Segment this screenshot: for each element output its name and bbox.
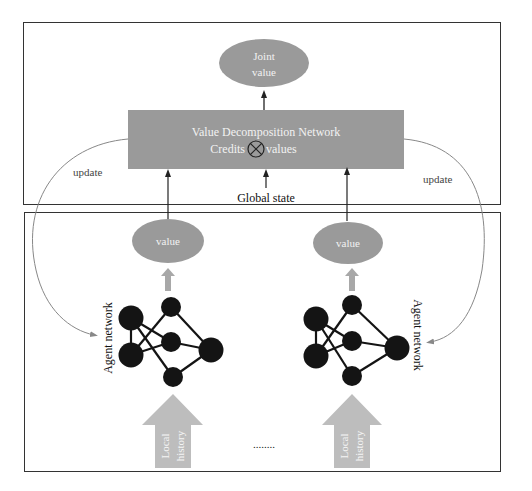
joint-value-label-1: Joint — [253, 50, 274, 62]
update-label-left: update — [73, 166, 102, 178]
agent-2-local-history-arrow: Local history — [322, 394, 382, 468]
agent-1-value-node: value — [132, 219, 204, 263]
joint-value-label-2: value — [252, 66, 276, 78]
agent-1: value Agent network Lo — [101, 219, 224, 468]
agent-2-up-arrow — [345, 268, 359, 291]
agent-2-value-label: value — [336, 237, 360, 249]
agent-1-local-history-arrow: Local history — [142, 394, 203, 468]
agent-2-local-label: Local — [338, 433, 350, 458]
agent-2-value-node: value — [313, 222, 383, 264]
update-label-right: update — [423, 173, 452, 185]
agent-2: value Agent network Lo — [304, 222, 426, 468]
agent-2-history-label: history — [353, 430, 365, 461]
global-state-label: Global state — [237, 191, 295, 205]
credits-label: Credits — [210, 142, 245, 156]
bottom-panel — [25, 213, 501, 472]
vdn-title: Value Decomposition Network — [192, 125, 341, 139]
agent-1-value-label: value — [156, 235, 180, 247]
agent-1-network-icon — [119, 297, 224, 387]
vdn-box: Value Decomposition Network Credits valu… — [128, 110, 404, 169]
agent-1-history-label: history — [174, 430, 186, 461]
agent-1-up-arrow — [161, 268, 175, 291]
agent-2-network-icon — [304, 295, 410, 386]
more-agents-ellipsis: ........ — [253, 438, 275, 450]
agent-2-network-label: Agent network — [411, 299, 425, 371]
agent-1-network-label: Agent network — [101, 302, 115, 374]
vdn-diagram: Joint value Value Decomposition Network … — [0, 0, 532, 491]
joint-value-node: Joint value — [219, 39, 309, 87]
values-label: values — [266, 142, 297, 156]
agent-1-local-label: Local — [159, 433, 171, 458]
